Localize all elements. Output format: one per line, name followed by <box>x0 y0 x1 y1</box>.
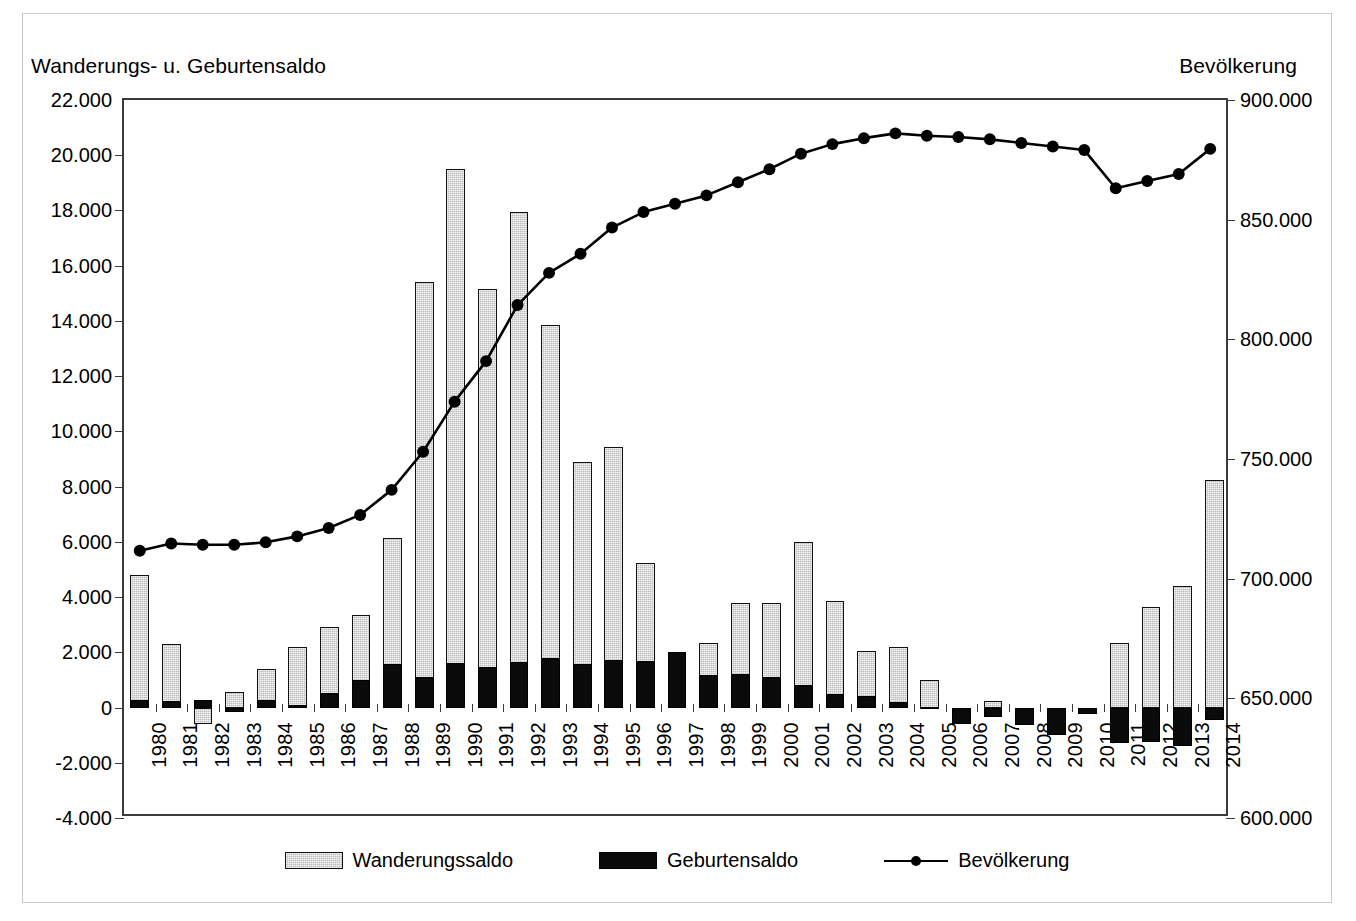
line-marker-bevoelkerung <box>763 163 775 175</box>
line-marker-bevoelkerung <box>449 396 461 408</box>
line-marker-bevoelkerung <box>354 509 366 521</box>
y-axis-left-tick-label: -2.000 <box>55 753 112 773</box>
y-axis-right-tick-label: 800.000 <box>1240 329 1312 349</box>
line-marker-bevoelkerung <box>1110 182 1122 194</box>
y-axis-left-tick-label: 6.000 <box>62 532 112 552</box>
y-axis-left-tickmark <box>115 542 124 543</box>
gray-bar-swatch-icon <box>285 852 343 869</box>
y-axis-left-tick-label: 12.000 <box>51 366 112 386</box>
y-axis-left-tick-label: 16.000 <box>51 256 112 276</box>
line-marker-bevoelkerung <box>1173 168 1185 180</box>
legend-item-bevoelkerung: Bevölkerung <box>884 849 1069 872</box>
y-axis-right-tick-label: 700.000 <box>1240 569 1312 589</box>
y-axis-left-tick-label: 0 <box>101 698 112 718</box>
line-series-bevoelkerung <box>124 100 1226 815</box>
line-marker-bevoelkerung <box>1047 141 1059 153</box>
line-marker-bevoelkerung <box>323 522 335 534</box>
y-axis-right-tickmark <box>1226 579 1235 580</box>
y-axis-right-tickmark <box>1226 339 1235 340</box>
chart-legend: Wanderungssaldo Geburtensaldo Bevölkerun… <box>23 849 1331 872</box>
line-marker-bevoelkerung <box>197 539 209 551</box>
right-axis-title: Bevölkerung <box>1179 54 1297 78</box>
y-axis-right-tick-label: 600.000 <box>1240 808 1312 828</box>
y-axis-left-tickmark <box>115 818 124 819</box>
y-axis-right-tick-label: 650.000 <box>1240 688 1312 708</box>
line-path-bevoelkerung <box>140 133 1210 550</box>
line-marker-bevoelkerung <box>700 189 712 201</box>
line-marker-bevoelkerung <box>732 176 744 188</box>
line-marker-bevoelkerung <box>543 267 555 279</box>
line-marker-bevoelkerung <box>291 530 303 542</box>
line-marker-bevoelkerung <box>889 127 901 139</box>
y-axis-left-tick-label: 8.000 <box>62 477 112 497</box>
line-marker-bevoelkerung <box>952 131 964 143</box>
line-marker-bevoelkerung <box>1078 144 1090 156</box>
legend-label: Wanderungssaldo <box>353 849 513 872</box>
left-axis-title: Wanderungs- u. Geburtensaldo <box>31 54 326 78</box>
line-marker-bevoelkerung <box>921 130 933 142</box>
plot-area: 22.00020.00018.00016.00014.00012.00010.0… <box>122 98 1228 816</box>
y-axis-left-tickmark <box>115 321 124 322</box>
y-axis-left-tickmark <box>115 763 124 764</box>
line-marker-bevoelkerung <box>638 206 650 218</box>
y-axis-left-tick-label: 14.000 <box>51 311 112 331</box>
line-marker-bevoelkerung <box>1015 137 1027 149</box>
line-marker-bevoelkerung <box>795 148 807 160</box>
y-axis-left-tickmark <box>115 597 124 598</box>
y-axis-left-tick-label: 22.000 <box>51 90 112 110</box>
y-axis-left-tickmark <box>115 652 124 653</box>
y-axis-right-tickmark <box>1226 100 1235 101</box>
y-axis-left-tick-label: -4.000 <box>55 808 112 828</box>
y-axis-right-tickmark <box>1226 698 1235 699</box>
legend-label: Bevölkerung <box>958 849 1069 872</box>
legend-item-wanderungssaldo: Wanderungssaldo <box>285 849 513 872</box>
line-marker-bevoelkerung <box>417 446 429 458</box>
y-axis-right-tick-label: 850.000 <box>1240 210 1312 230</box>
y-axis-left-tickmark <box>115 155 124 156</box>
line-marker-bevoelkerung <box>512 299 524 311</box>
line-marker-bevoelkerung <box>134 545 146 557</box>
y-axis-left-tick-label: 10.000 <box>51 421 112 441</box>
y-axis-left-tick-label: 18.000 <box>51 200 112 220</box>
line-marker-bevoelkerung <box>826 138 838 150</box>
line-marker-bevoelkerung <box>858 132 870 144</box>
y-axis-left-tickmark <box>115 431 124 432</box>
line-marker-bevoelkerung <box>575 248 587 260</box>
y-axis-right-tick-label: 750.000 <box>1240 449 1312 469</box>
plot-inner: 22.00020.00018.00016.00014.00012.00010.0… <box>124 100 1226 814</box>
y-axis-right-tickmark <box>1226 220 1235 221</box>
line-marker-bevoelkerung <box>228 539 240 551</box>
y-axis-left-tick-label: 4.000 <box>62 587 112 607</box>
y-axis-right-tick-label: 900.000 <box>1240 90 1312 110</box>
black-bar-swatch-icon <box>599 852 657 869</box>
line-marker-bevoelkerung <box>606 222 618 234</box>
y-axis-left-tick-label: 20.000 <box>51 145 112 165</box>
chart-frame: Wanderungs- u. Geburtensaldo Bevölkerung… <box>22 13 1332 903</box>
legend-item-geburtensaldo: Geburtensaldo <box>599 849 798 872</box>
line-marker-bevoelkerung <box>386 484 398 496</box>
line-marker-bevoelkerung <box>260 536 272 548</box>
line-marker-bevoelkerung <box>984 133 996 145</box>
line-marker-bevoelkerung <box>480 355 492 367</box>
line-marker-bevoelkerung <box>669 198 681 210</box>
line-marker-bevoelkerung <box>165 538 177 550</box>
y-axis-left-tickmark <box>115 210 124 211</box>
y-axis-left-tick-label: 2.000 <box>62 642 112 662</box>
y-axis-left-tickmark <box>115 376 124 377</box>
y-axis-right-tickmark <box>1226 818 1235 819</box>
legend-label: Geburtensaldo <box>667 849 798 872</box>
line-marker-bevoelkerung <box>1141 175 1153 187</box>
line-marker-bevoelkerung <box>1204 143 1216 155</box>
y-axis-right-tickmark <box>1226 459 1235 460</box>
y-axis-left-tickmark <box>115 708 124 709</box>
line-with-dot-swatch-icon <box>884 854 948 868</box>
y-axis-left-tickmark <box>115 487 124 488</box>
y-axis-left-tickmark <box>115 266 124 267</box>
